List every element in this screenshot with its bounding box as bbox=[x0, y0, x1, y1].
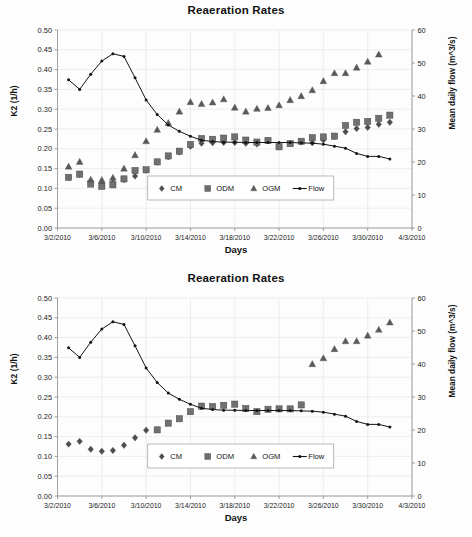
flow-marker bbox=[67, 78, 70, 81]
ogm-marker bbox=[143, 138, 150, 144]
y-tick-label-left: 0.05 bbox=[38, 204, 52, 213]
y-tick-label-right: 20 bbox=[418, 158, 426, 167]
ogm-marker bbox=[254, 105, 261, 111]
cm-marker bbox=[365, 124, 371, 130]
flow-marker bbox=[111, 320, 114, 323]
flow-marker bbox=[211, 408, 214, 411]
flow-marker bbox=[289, 409, 292, 412]
y-tick-label-left: 0.30 bbox=[38, 105, 52, 114]
odm-marker bbox=[187, 409, 193, 415]
ogm-marker bbox=[265, 104, 272, 110]
ogm-marker bbox=[320, 78, 327, 84]
flow-marker bbox=[377, 155, 380, 158]
flow-marker bbox=[134, 76, 137, 79]
chart-panel-bottom: Reaeration Rates K2 (1/h) Mean daily flo… bbox=[0, 268, 472, 536]
legend-marker-flow-dot bbox=[298, 187, 301, 190]
flow-marker bbox=[244, 141, 247, 144]
flow-marker bbox=[233, 409, 236, 412]
flow-marker bbox=[233, 141, 236, 144]
ogm-marker bbox=[65, 163, 72, 169]
y-tick-label-left: 0.25 bbox=[38, 125, 52, 134]
ogm-marker bbox=[220, 96, 227, 102]
y-tick-label-right: 40 bbox=[418, 360, 426, 369]
flow-marker bbox=[266, 409, 269, 412]
flow-marker bbox=[311, 142, 314, 145]
ogm-marker bbox=[309, 361, 316, 367]
legend-label-cm: CM bbox=[170, 452, 182, 461]
flow-marker bbox=[311, 410, 314, 413]
x-axis-ticks-top: 3/2/20103/6/20103/10/20103/14/20103/18/2… bbox=[44, 228, 425, 241]
flow-marker bbox=[366, 423, 369, 426]
y-tick-label-left: 0.40 bbox=[38, 333, 52, 342]
ogm-marker bbox=[121, 165, 128, 171]
flow-marker bbox=[156, 381, 159, 384]
flow-marker bbox=[122, 323, 125, 326]
plot-svg-bottom: 0.000.050.100.150.200.250.300.350.400.45… bbox=[0, 268, 472, 536]
cm-marker bbox=[66, 441, 72, 447]
flow-marker bbox=[377, 423, 380, 426]
flow-marker bbox=[100, 328, 103, 331]
series-flow-top bbox=[67, 52, 391, 160]
y-tick-label-left: 0.35 bbox=[38, 85, 52, 94]
y-tick-label-left: 0.05 bbox=[38, 472, 52, 481]
odm-marker bbox=[309, 135, 315, 141]
odm-marker bbox=[331, 133, 337, 139]
flow-marker bbox=[366, 155, 369, 158]
x-tick-label: 3/10/2010 bbox=[131, 502, 162, 509]
y-tick-label-right: 10 bbox=[418, 191, 426, 200]
flow-marker bbox=[278, 141, 281, 144]
ogm-marker bbox=[309, 87, 316, 93]
odm-marker bbox=[77, 171, 83, 177]
x-tick-label: 3/2/2010 bbox=[44, 502, 71, 509]
y-axis-right-ticks-bottom: 0102030405060 bbox=[412, 294, 426, 501]
odm-marker bbox=[320, 134, 326, 140]
flow-marker bbox=[178, 130, 181, 133]
legend-label-flow: Flow bbox=[308, 452, 325, 461]
x-tick-label: 3/30/2010 bbox=[352, 234, 383, 241]
odm-marker bbox=[165, 420, 171, 426]
x-tick-label: 3/6/2010 bbox=[88, 234, 115, 241]
ogm-marker bbox=[110, 174, 117, 180]
flow-marker bbox=[134, 344, 137, 347]
flow-marker bbox=[189, 403, 192, 406]
odm-marker bbox=[354, 119, 360, 125]
flow-marker bbox=[167, 124, 170, 127]
plot-svg-top: 0.000.050.100.150.200.250.300.350.400.45… bbox=[0, 0, 472, 268]
y-tick-label-right: 10 bbox=[418, 459, 426, 468]
ogm-marker bbox=[76, 158, 83, 164]
flow-marker bbox=[255, 141, 258, 144]
odm-marker bbox=[376, 115, 382, 121]
flow-marker bbox=[344, 147, 347, 150]
flow-marker bbox=[300, 141, 303, 144]
y-axis-left-ticks-bottom: 0.000.050.100.150.200.250.300.350.400.45… bbox=[38, 294, 58, 501]
flow-marker bbox=[89, 341, 92, 344]
cm-marker bbox=[354, 125, 360, 131]
ogm-marker bbox=[353, 338, 360, 344]
y-tick-label-left: 0.10 bbox=[38, 452, 52, 461]
odm-marker bbox=[154, 427, 160, 433]
flow-marker bbox=[111, 52, 114, 55]
y-tick-label-left: 0.25 bbox=[38, 393, 52, 402]
x-tick-label: 3/22/2010 bbox=[264, 234, 295, 241]
ogm-marker bbox=[231, 104, 238, 110]
ogm-marker bbox=[353, 64, 360, 70]
ogm-marker bbox=[98, 177, 105, 183]
y-tick-label-left: 0.15 bbox=[38, 164, 52, 173]
ogm-marker bbox=[298, 93, 305, 99]
odm-marker bbox=[221, 402, 227, 408]
flow-marker bbox=[178, 398, 181, 401]
y-tick-label-left: 0.20 bbox=[38, 412, 52, 421]
x-tick-label: 3/18/2010 bbox=[219, 234, 250, 241]
odm-marker bbox=[121, 176, 127, 182]
cm-marker bbox=[110, 447, 116, 453]
y-axis-left-ticks-top: 0.000.050.100.150.200.250.300.350.400.45… bbox=[38, 26, 58, 233]
y-tick-label-left: 0.30 bbox=[38, 373, 52, 382]
y-tick-label-left: 0.40 bbox=[38, 65, 52, 74]
legend-marker-flow-dot bbox=[298, 455, 301, 458]
flow-marker bbox=[122, 55, 125, 58]
y-tick-label-right: 30 bbox=[418, 125, 426, 134]
x-tick-label: 3/6/2010 bbox=[88, 502, 115, 509]
odm-marker bbox=[176, 148, 182, 154]
x-axis-ticks-bottom: 3/2/20103/6/20103/10/20103/14/20103/18/2… bbox=[44, 496, 425, 509]
ogm-marker bbox=[154, 126, 161, 132]
